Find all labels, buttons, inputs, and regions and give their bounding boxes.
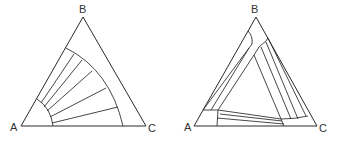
right-bottom-band	[203, 110, 308, 126]
left-inner-boundary-arc	[37, 99, 53, 126]
left-label-b: B	[79, 3, 86, 15]
left-ternary-diagram: B A C	[10, 3, 156, 134]
right-top-left-curve	[248, 31, 252, 44]
right-ternary-diagram: B A C	[184, 3, 327, 134]
right-left-band	[203, 44, 254, 110]
ternary-diagrams: B A C B A C	[0, 0, 342, 143]
left-label-a: A	[10, 121, 18, 133]
right-label-b: B	[251, 3, 258, 15]
right-right-band	[254, 38, 306, 119]
right-top-cross-curve	[254, 38, 268, 55]
left-label-c: C	[148, 122, 156, 134]
right-bottom-tie-2	[217, 118, 284, 124]
left-tie-lines	[41, 54, 118, 123]
left-triangle-outline	[21, 17, 146, 126]
right-label-a: A	[184, 121, 192, 133]
right-label-c: C	[319, 122, 327, 134]
